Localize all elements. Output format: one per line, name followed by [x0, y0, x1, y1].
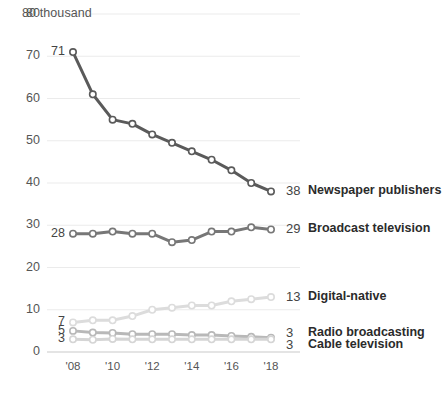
data-point-marker: [208, 302, 214, 308]
data-point-marker: [208, 228, 214, 234]
data-point-marker: [189, 336, 195, 342]
data-point-marker: [268, 294, 274, 300]
series-start-value: 28: [39, 226, 65, 240]
data-point-marker: [189, 302, 195, 308]
data-point-marker: [189, 237, 195, 243]
x-axis-tick-label: '12: [137, 360, 167, 372]
data-point-marker: [90, 91, 96, 97]
series-legend-label: Newspaper publishers: [308, 183, 441, 197]
data-point-marker: [149, 336, 155, 342]
x-axis-tick-label: '18: [256, 360, 286, 372]
y-axis-tick-label: 0: [10, 344, 40, 358]
series-end-value: 29: [286, 221, 300, 236]
data-point-marker: [129, 336, 135, 342]
data-point-marker: [90, 317, 96, 323]
x-axis-tick-label: '10: [98, 360, 128, 372]
data-point-marker: [268, 336, 274, 342]
y-axis-tick-label: 10: [10, 302, 40, 316]
x-axis-tick-label: '14: [177, 360, 207, 372]
data-point-marker: [129, 121, 135, 127]
data-point-marker: [169, 140, 175, 146]
data-point-marker: [109, 317, 115, 323]
data-point-marker: [70, 336, 76, 342]
y-axis-tick-label: 60: [10, 91, 40, 105]
series-end-value: 38: [286, 183, 300, 198]
data-point-marker: [208, 157, 214, 163]
data-point-marker: [248, 180, 254, 186]
data-point-marker: [70, 319, 76, 325]
data-point-marker: [208, 336, 214, 342]
data-point-marker: [149, 231, 155, 237]
data-point-marker: [70, 231, 76, 237]
data-point-marker: [169, 336, 175, 342]
series-start-value: 3: [39, 331, 65, 345]
series-start-value: 71: [39, 44, 65, 58]
data-point-marker: [90, 329, 96, 335]
y-axis-tick-label: 50: [10, 133, 40, 147]
series-line: [73, 52, 271, 191]
data-point-marker: [228, 167, 234, 173]
data-point-marker: [248, 296, 254, 302]
data-point-marker: [149, 307, 155, 313]
data-point-marker: [70, 328, 76, 334]
data-point-marker: [70, 49, 76, 55]
series-legend-label: Broadcast television: [308, 221, 430, 235]
series-legend-label: Cable television: [308, 337, 403, 351]
data-point-marker: [169, 239, 175, 245]
data-point-marker: [90, 337, 96, 343]
data-point-marker: [228, 298, 234, 304]
y-axis-tick-label: 30: [10, 217, 40, 231]
data-point-marker: [268, 226, 274, 232]
y-axis-tick-label: 40: [10, 175, 40, 189]
data-point-marker: [268, 188, 274, 194]
y-axis-tick-label: 20: [10, 260, 40, 274]
data-point-marker: [248, 336, 254, 342]
series-legend-label: Digital-native: [308, 289, 387, 303]
data-point-marker: [169, 304, 175, 310]
y-axis-tick-label: 70: [10, 48, 40, 62]
data-point-marker: [109, 228, 115, 234]
data-point-marker: [90, 231, 96, 237]
data-point-marker: [129, 231, 135, 237]
data-point-marker: [189, 148, 195, 154]
series-end-value: 3: [286, 337, 293, 352]
data-point-marker: [109, 336, 115, 342]
line-chart: 80 thousand 01020304050607080'08'10'12'1…: [0, 0, 442, 394]
data-point-marker: [248, 224, 254, 230]
series-end-value: 13: [286, 289, 300, 304]
data-point-marker: [228, 336, 234, 342]
data-point-marker: [149, 131, 155, 137]
x-axis-tick-label: '08: [58, 360, 88, 372]
y-axis-tick-label: 80: [10, 6, 40, 20]
x-axis-tick-label: '16: [216, 360, 246, 372]
data-point-marker: [109, 116, 115, 122]
data-point-marker: [228, 228, 234, 234]
data-point-marker: [129, 313, 135, 319]
